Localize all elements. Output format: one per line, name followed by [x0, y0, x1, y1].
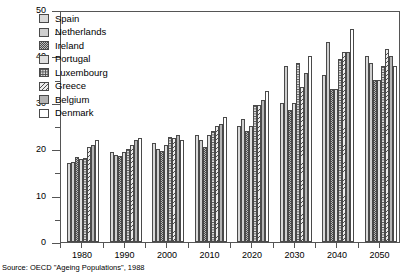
- y-axis-tick-label: 10: [36, 192, 46, 201]
- legend-label: Spain: [55, 14, 79, 24]
- x-axis-tick-label: 2050: [360, 250, 400, 260]
- legend-swatch-greece-icon: [39, 82, 49, 91]
- legend-label: Ireland: [55, 41, 84, 51]
- x-axis-minor-tick: [124, 243, 125, 248]
- x-axis-tick-label: 2010: [190, 250, 230, 260]
- x-axis-tick-label: 2000: [147, 250, 187, 260]
- x-axis-tick-label: 2040: [317, 250, 357, 260]
- x-axis-tick: [273, 243, 274, 248]
- x-axis-minor-tick: [209, 243, 210, 248]
- legend-item-belgium[interactable]: Belgium: [39, 93, 149, 107]
- bar-denmark-2030: [308, 56, 312, 242]
- y-axis-tick-label: 20: [36, 145, 46, 154]
- x-axis-minor-tick: [379, 243, 380, 248]
- legend-label: Denmark: [55, 108, 94, 118]
- x-axis-tick-label: 2020: [232, 250, 272, 260]
- x-axis-tick: [145, 243, 146, 248]
- x-axis-tick: [358, 243, 359, 248]
- x-axis-minor-tick: [294, 243, 295, 248]
- bar-denmark-2050: [393, 66, 397, 242]
- x-axis-minor-tick: [336, 243, 337, 248]
- legend-item-greece[interactable]: Greece: [39, 80, 149, 94]
- legend-swatch-belgium-icon: [39, 95, 49, 104]
- legend-swatch-spain-icon: [39, 14, 49, 23]
- bar-denmark-1990: [138, 138, 142, 242]
- legend-item-denmark[interactable]: Denmark: [39, 107, 149, 121]
- bar-denmark-2020: [265, 91, 269, 242]
- x-axis-tick-label: 1980: [62, 250, 102, 260]
- bar-denmark-2040: [350, 29, 354, 242]
- legend-item-spain[interactable]: Spain: [39, 12, 149, 26]
- x-axis-tick: [188, 243, 189, 248]
- bar-denmark-1980: [95, 140, 99, 242]
- legend-item-luxembourg[interactable]: Luxembourg: [39, 66, 149, 80]
- x-axis-minor-tick: [81, 243, 82, 248]
- legend-swatch-portugal-icon: [39, 55, 49, 64]
- y-axis-tick: [52, 197, 60, 198]
- bar-denmark-2000: [180, 140, 184, 242]
- legend-label: Luxembourg: [55, 68, 108, 78]
- x-axis-minor-tick: [251, 243, 252, 248]
- legend-label: Greece: [55, 81, 86, 91]
- y-axis-tick-label: 0: [41, 238, 46, 247]
- x-axis-tick: [60, 243, 61, 248]
- x-axis-minor-tick: [166, 243, 167, 248]
- y-axis-tick: [52, 243, 60, 244]
- legend-item-portugal[interactable]: Portugal: [39, 53, 149, 67]
- legend-label: Netherlands: [55, 27, 106, 37]
- bar-denmark-2010: [223, 117, 227, 242]
- chart-container: 01020304050 1980199020002010202020302040…: [0, 0, 415, 275]
- legend-label: Portugal: [55, 54, 90, 64]
- legend-swatch-ireland-icon: [39, 41, 49, 50]
- legend-item-ireland[interactable]: Ireland: [39, 39, 149, 53]
- x-axis-tick-label: 1990: [105, 250, 145, 260]
- source-note: Source: OECD "Ageing Populations", 1988: [2, 263, 145, 272]
- legend-swatch-denmark-icon: [39, 109, 49, 118]
- x-axis-tick: [230, 243, 231, 248]
- legend-item-netherlands[interactable]: Netherlands: [39, 26, 149, 40]
- legend-label: Belgium: [55, 95, 89, 105]
- legend: SpainNetherlandsIrelandPortugalLuxembour…: [39, 12, 149, 120]
- x-axis-tick-label: 2030: [275, 250, 315, 260]
- legend-swatch-luxembourg-icon: [39, 68, 49, 77]
- x-axis-tick: [315, 243, 316, 248]
- y-axis-tick: [52, 150, 60, 151]
- x-axis-tick: [103, 243, 104, 248]
- legend-swatch-netherlands-icon: [39, 28, 49, 37]
